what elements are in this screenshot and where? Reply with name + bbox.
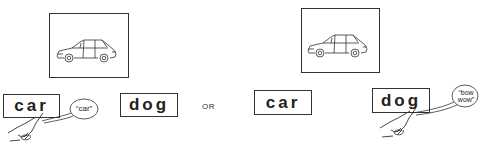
speech-text: “bow wow” bbox=[454, 89, 478, 103]
car-icon bbox=[50, 14, 130, 79]
pointing-hand-icon bbox=[8, 113, 48, 143]
word-card-car[interactable]: car bbox=[254, 90, 312, 115]
pointing-hand-icon bbox=[380, 108, 422, 140]
car-picture-frame-left bbox=[49, 13, 129, 78]
speech-line: wow” bbox=[454, 96, 478, 103]
word-card-dog[interactable]: dog bbox=[120, 93, 178, 117]
or-separator: OR bbox=[202, 102, 215, 111]
speech-text: “car” bbox=[70, 105, 98, 112]
word-card-label: dog bbox=[129, 95, 169, 115]
car-icon bbox=[302, 9, 381, 74]
cropped-text-fragment bbox=[295, 140, 480, 145]
car-picture-frame-right bbox=[301, 8, 380, 73]
word-card-label: car bbox=[266, 93, 301, 113]
speech-line: “bow bbox=[454, 89, 478, 96]
speech-bubble: “car” bbox=[40, 94, 102, 124]
